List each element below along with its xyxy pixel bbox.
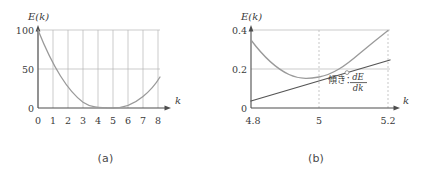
panel-b-slope-numerator: dE	[352, 72, 364, 82]
panel-a-x-axis-label: k	[175, 95, 181, 106]
panel-b-slope-label: 傾き：	[328, 74, 355, 85]
panel-a-caption: (a)	[0, 152, 211, 165]
panel-a-ytick-0: 0	[28, 103, 34, 114]
panel-b-ytick-02: 0.2	[232, 64, 247, 75]
panel-b-xtick-52: 5.2	[380, 115, 395, 126]
panel-a-xtick-3: 3	[80, 115, 86, 126]
panel-a-xtick-6: 6	[125, 115, 131, 126]
panel-b-slope-annotation: 傾き： dE dk	[328, 72, 367, 93]
panel-b-ytick-0: 0	[241, 103, 247, 114]
panel-b-tangent-line	[251, 60, 390, 101]
panel-a-horizontal-gridlines	[38, 30, 160, 69]
panel-a: 100 50 0 0 1 2 3 4 5 6 7 8 E(k) k (a)	[0, 0, 211, 150]
panel-a-ytick-100: 100	[16, 25, 34, 36]
panel-b-xtick-48: 4.8	[245, 115, 260, 126]
panel-a-y-axis-label: E(k)	[27, 11, 49, 22]
panel-b-xtick-5: 5	[316, 115, 322, 126]
figure-container: 100 50 0 0 1 2 3 4 5 6 7 8 E(k) k (a)	[0, 0, 421, 187]
panel-b-x-axis	[251, 106, 400, 111]
panel-b-plot: 0.4 0.2 0 4.8 5 5.2 E(k) k 傾き： dE dk	[211, 0, 421, 150]
panel-b-caption: (b)	[211, 152, 421, 165]
panel-a-ytick-50: 50	[22, 64, 34, 75]
panel-b-slope-denominator: dk	[353, 83, 364, 93]
panel-b-y-axis	[249, 25, 254, 108]
panel-a-xtick-7: 7	[140, 115, 146, 126]
panel-a-xtick-0: 0	[35, 115, 41, 126]
panel-a-y-axis	[36, 25, 41, 108]
panel-b: 0.4 0.2 0 4.8 5 5.2 E(k) k 傾き： dE dk (b)	[211, 0, 421, 150]
panel-a-xtick-4: 4	[95, 115, 101, 126]
panel-a-xtick-5: 5	[110, 115, 116, 126]
panel-a-xtick-8: 8	[155, 115, 161, 126]
panel-a-plot: 100 50 0 0 1 2 3 4 5 6 7 8 E(k) k	[0, 0, 211, 150]
panel-a-xtick-1: 1	[50, 115, 56, 126]
panel-b-curve	[251, 31, 388, 79]
panel-a-xtick-2: 2	[65, 115, 71, 126]
panel-b-y-axis-label: E(k)	[240, 11, 262, 22]
panel-b-ytick-04: 0.4	[232, 25, 247, 36]
panel-b-tangent-point-marker	[345, 71, 349, 75]
panel-b-x-axis-label: k	[403, 95, 409, 106]
